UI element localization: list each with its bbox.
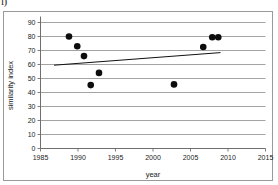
y-tick-label-10: 10 xyxy=(28,131,36,138)
data-point xyxy=(200,44,207,51)
y-tick-label-70: 70 xyxy=(28,47,36,54)
data-point xyxy=(74,43,81,50)
x-tick-label-1985: 1985 xyxy=(33,154,49,161)
y-axis-tick-labels: 0102030405060708090 xyxy=(28,19,36,152)
data-point xyxy=(87,82,94,89)
x-axis-title: year xyxy=(146,170,161,179)
tick-marks-group xyxy=(38,23,266,152)
y-axis-title: similarity index xyxy=(6,61,15,110)
y-tick-label-30: 30 xyxy=(28,103,36,110)
gridlines-group xyxy=(41,23,266,135)
data-point xyxy=(171,81,178,88)
data-point xyxy=(81,53,88,60)
x-tick-label-1990: 1990 xyxy=(70,154,86,161)
y-tick-label-50: 50 xyxy=(28,75,36,82)
x-axis-tick-labels: 1985199019952000200520102015 xyxy=(33,154,274,161)
data-points-group xyxy=(66,33,222,88)
data-point xyxy=(66,33,73,40)
data-point xyxy=(96,70,103,77)
x-tick-label-1995: 1995 xyxy=(108,154,124,161)
y-tick-label-90: 90 xyxy=(28,19,36,26)
y-tick-label-60: 60 xyxy=(28,61,36,68)
y-tick-label-80: 80 xyxy=(28,33,36,40)
trendline xyxy=(54,53,221,66)
y-tick-label-0: 0 xyxy=(32,145,36,152)
y-tick-label-40: 40 xyxy=(28,89,36,96)
x-tick-label-2000: 2000 xyxy=(145,154,161,161)
x-tick-label-2010: 2010 xyxy=(220,154,236,161)
scatter-chart: 0102030405060708090 19851990199520002005… xyxy=(0,0,278,185)
y-tick-label-20: 20 xyxy=(28,117,36,124)
data-point xyxy=(215,34,222,41)
data-point xyxy=(209,34,216,41)
x-tick-label-2015: 2015 xyxy=(258,154,274,161)
x-tick-label-2005: 2005 xyxy=(183,154,199,161)
